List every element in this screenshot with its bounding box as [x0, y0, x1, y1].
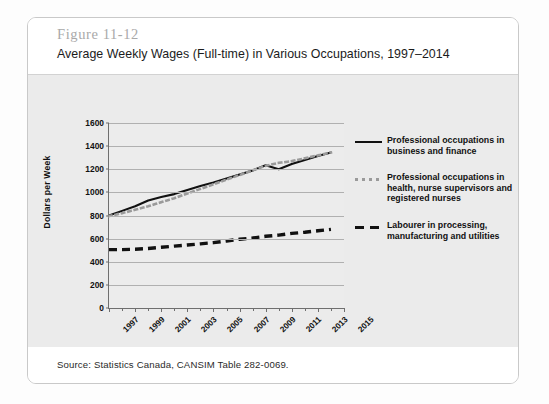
- y-tick-label: 1000: [85, 187, 104, 197]
- x-tick-mark: [266, 308, 267, 312]
- x-tick-mark: [161, 308, 162, 312]
- plot-area: 0200400600800100012001400160019971999200…: [108, 123, 344, 309]
- y-tick-mark: [106, 238, 109, 239]
- x-tick-mark: [187, 308, 188, 312]
- figure-number: Figure 11-12: [57, 26, 139, 43]
- x-tick-mark: [240, 308, 241, 312]
- chart-area: Dollars per Week 02004006008001000120014…: [28, 74, 518, 350]
- x-tick-mark-minor: [227, 308, 228, 311]
- x-tick-label: 2001: [174, 315, 193, 334]
- x-tick-label: 2005: [226, 315, 245, 334]
- y-tick-label: 800: [90, 211, 104, 221]
- legend-label: Professional occupations in business and…: [387, 135, 515, 156]
- legend-marker-dashed: [355, 224, 382, 230]
- x-tick-label: 2015: [356, 315, 375, 334]
- legend-marker-dotted: [355, 176, 382, 182]
- series-line: [109, 152, 331, 215]
- x-tick-mark-minor: [174, 308, 175, 311]
- gridline: [109, 192, 344, 193]
- y-tick-label: 200: [90, 280, 104, 290]
- x-tick-mark: [292, 308, 293, 312]
- y-tick-mark: [106, 169, 109, 170]
- legend-item: Labourer in processing, manufacturing an…: [355, 220, 515, 241]
- x-tick-label: 1997: [121, 315, 140, 334]
- x-tick-label: 2003: [200, 315, 219, 334]
- x-tick-mark-minor: [279, 308, 280, 311]
- x-tick-label: 1999: [147, 315, 166, 334]
- x-tick-label: 2013: [330, 315, 349, 334]
- y-tick-mark: [106, 146, 109, 147]
- legend-item: Professional occupations in health, nurs…: [355, 172, 515, 204]
- y-tick-mark: [106, 261, 109, 262]
- x-tick-mark-minor: [122, 308, 123, 311]
- x-tick-label: 2009: [278, 315, 297, 334]
- y-tick-label: 400: [90, 257, 104, 267]
- legend-label: Professional occupations in health, nurs…: [387, 172, 515, 204]
- y-tick-label: 0: [99, 303, 104, 313]
- legend-item: Professional occupations in business and…: [355, 135, 515, 156]
- x-tick-mark-minor: [331, 308, 332, 311]
- figure-header: Figure 11-12 Average Weekly Wages (Full-…: [28, 18, 518, 74]
- y-tick-label: 1400: [85, 141, 104, 151]
- gridline: [109, 146, 344, 147]
- y-tick-mark: [106, 192, 109, 193]
- gridline: [109, 216, 344, 217]
- legend-marker-solid: [355, 139, 382, 145]
- x-tick-mark-minor: [148, 308, 149, 311]
- x-tick-mark: [135, 308, 136, 312]
- gridline: [109, 285, 344, 286]
- x-tick-mark-minor: [253, 308, 254, 311]
- figure-card: Figure 11-12 Average Weekly Wages (Full-…: [27, 17, 519, 384]
- y-tick-mark: [106, 215, 109, 216]
- y-tick-label: 1200: [85, 164, 104, 174]
- figure-page: Figure 11-12 Average Weekly Wages (Full-…: [0, 0, 549, 404]
- x-tick-mark: [318, 308, 319, 312]
- gridline: [109, 123, 344, 124]
- figure-footer: Source: Statistics Canada, CANSIM Table …: [28, 347, 518, 383]
- gridline: [109, 169, 344, 170]
- x-tick-mark-minor: [305, 308, 306, 311]
- y-axis-label: Dollars per Week: [42, 137, 52, 247]
- x-tick-mark: [213, 308, 214, 312]
- y-tick-label: 600: [90, 234, 104, 244]
- figure-title: Average Weekly Wages (Full-time) in Vari…: [57, 47, 450, 61]
- y-tick-label: 1600: [85, 118, 104, 128]
- x-tick-mark: [344, 308, 345, 312]
- x-tick-mark-minor: [200, 308, 201, 311]
- gridline: [109, 262, 344, 263]
- y-tick-mark: [106, 284, 109, 285]
- gridline: [109, 239, 344, 240]
- chart-legend: Professional occupations in business and…: [355, 135, 515, 257]
- y-tick-mark: [106, 123, 109, 124]
- x-tick-label: 2007: [252, 315, 271, 334]
- source-note: Source: Statistics Canada, CANSIM Table …: [57, 359, 289, 370]
- x-tick-label: 2011: [304, 315, 323, 334]
- legend-label: Labourer in processing, manufacturing an…: [387, 220, 515, 241]
- x-tick-mark: [109, 308, 110, 312]
